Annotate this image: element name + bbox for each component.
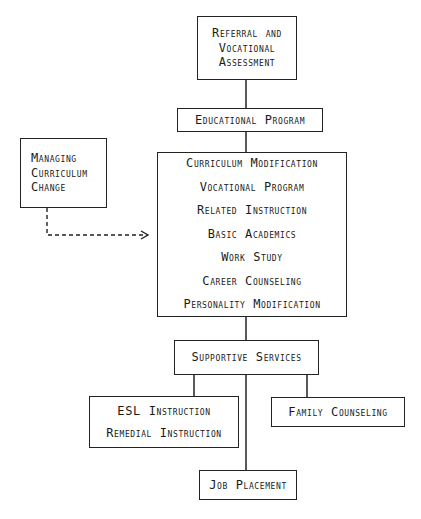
node-referral-assessment: Referral and Vocational Assessment — [197, 16, 297, 80]
component-item: Related Instruction — [197, 199, 307, 223]
component-item: Basic Academics — [208, 223, 296, 247]
component-item: Vocational Program — [200, 176, 305, 200]
node-label-line: Assessment — [219, 55, 276, 69]
node-educational-program: Educational Program — [177, 108, 323, 132]
node-label-line: Curriculum — [31, 166, 88, 180]
node-label: Educational Program — [195, 113, 305, 127]
dashed-arrow-managing-to-components — [47, 208, 148, 239]
node-label-line: Change — [31, 180, 66, 194]
node-label-line: ESL Instruction — [117, 400, 210, 422]
component-item: Personality Modification — [183, 293, 320, 317]
component-item: Work Study — [221, 246, 282, 270]
node-family-counseling: Family Counseling — [271, 397, 405, 427]
node-label: Supportive Services — [191, 350, 301, 364]
component-item: Career Counseling — [202, 270, 301, 294]
node-managing-curriculum-change: Managing Curriculum Change — [20, 138, 107, 208]
node-label-line: Vocational — [219, 41, 276, 55]
node-label: Family Counseling — [288, 405, 387, 419]
node-label-line: Remedial Instruction — [106, 422, 222, 444]
component-item: Curriculum Modification — [186, 152, 318, 176]
node-label-line: Referral and — [212, 26, 282, 40]
node-program-components: Curriculum Modification Vocational Progr… — [157, 152, 347, 317]
node-label: Job Placement — [209, 478, 287, 492]
node-job-placement: Job Placement — [199, 470, 297, 500]
node-esl-remedial-instruction: ESL Instruction Remedial Instruction — [89, 396, 239, 448]
node-label-line: Managing — [31, 151, 77, 165]
node-supportive-services: Supportive Services — [174, 340, 319, 375]
